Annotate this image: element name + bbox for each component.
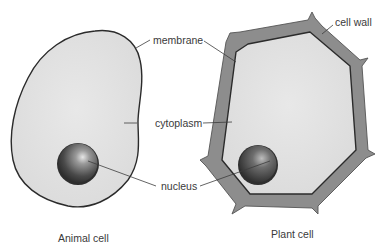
cell-diagram: membrane cell wall cytoplasm nucleus Ani… (0, 0, 390, 248)
animal-cell (11, 31, 142, 207)
leader-membrane-animal (136, 40, 150, 48)
plant-cell (200, 12, 375, 214)
animal-nucleus (57, 143, 99, 185)
label-cytoplasm: cytoplasm (155, 117, 203, 129)
caption-plant-cell: Plant cell (271, 228, 314, 240)
label-nucleus: nucleus (161, 180, 197, 192)
label-cell-wall: cell wall (335, 16, 372, 28)
caption-animal-cell: Animal cell (58, 232, 109, 244)
label-membrane: membrane (153, 34, 203, 46)
